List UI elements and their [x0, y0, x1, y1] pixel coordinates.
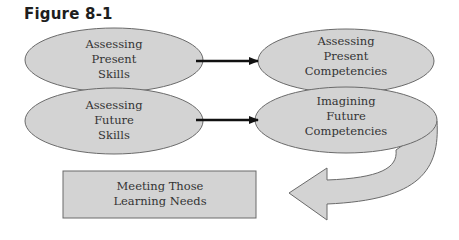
label-assessing-present-competencies: Assessing Present Competencies: [286, 34, 406, 79]
label-imagining-future-competencies: Imagining Future Competencies: [286, 94, 406, 139]
label-assessing-present-skills: Assessing Present Skills: [64, 37, 164, 82]
label-assessing-future-skills: Assessing Future Skills: [64, 98, 164, 143]
label-meeting-learning-needs: Meeting Those Learning Needs: [85, 179, 235, 209]
